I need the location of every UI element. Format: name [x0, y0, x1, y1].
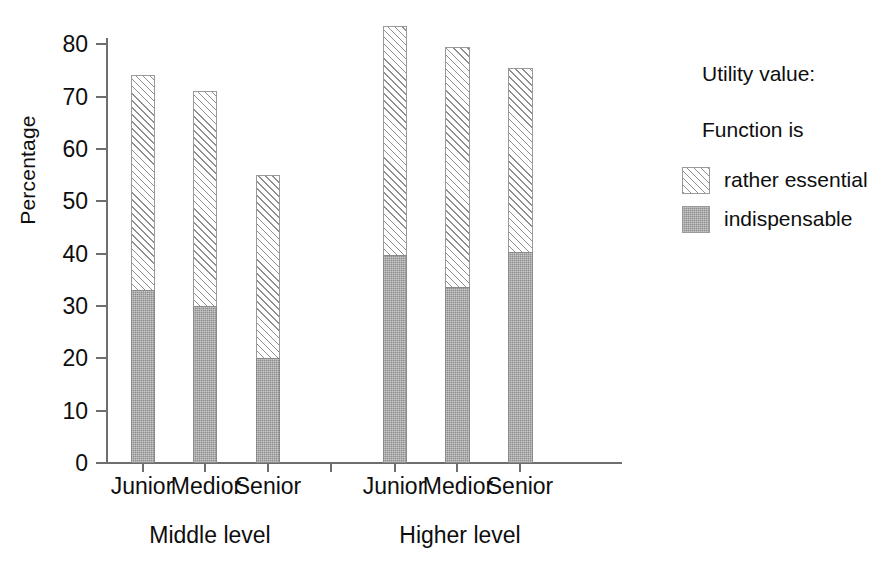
- bar-segment-rather-essential: [193, 91, 217, 309]
- bar-middle-medior: [193, 91, 217, 463]
- x-tick-middle-junior: [142, 464, 144, 472]
- y-tick-label-30: 30: [28, 295, 88, 318]
- group-label-higher-level: Higher level: [380, 522, 540, 548]
- x-axis-line: [106, 462, 622, 464]
- bar-segment-rather-essential: [256, 175, 280, 360]
- x-tick-higher-junior: [394, 464, 396, 472]
- x-tick-higher-senior: [519, 464, 521, 472]
- category-label-middle-senior: Senior: [228, 473, 308, 499]
- y-tick-60: [96, 148, 106, 150]
- y-tick-label-10: 10: [28, 400, 88, 423]
- bar-segment-indispensable: [131, 290, 155, 463]
- y-tick-0: [96, 462, 106, 464]
- y-tick-80: [96, 43, 106, 45]
- legend-swatch-indispensable-icon: [682, 206, 710, 233]
- y-tick-label-60: 60: [28, 138, 88, 161]
- bar-segment-indispensable: [256, 358, 280, 463]
- bar-middle-junior: [131, 75, 155, 463]
- x-tick-middle-medior: [204, 464, 206, 472]
- bar-segment-rather-essential: [508, 68, 533, 255]
- y-axis-line: [106, 38, 108, 464]
- bar-segment-indispensable: [508, 252, 533, 463]
- bar-segment-rather-essential: [445, 47, 470, 290]
- bar-segment-rather-essential: [383, 26, 407, 258]
- y-tick-10: [96, 410, 106, 412]
- legend-label-indispensable: indispensable: [724, 207, 852, 231]
- y-tick-label-70: 70: [28, 86, 88, 109]
- x-tick-middle-senior: [267, 464, 269, 472]
- bar-higher-medior: [445, 47, 470, 463]
- bar-segment-rather-essential: [131, 75, 155, 293]
- y-tick-label-0: 0: [28, 452, 88, 475]
- y-axis-title: Percentage: [16, 90, 40, 250]
- bar-segment-indispensable: [193, 306, 217, 463]
- bar-segment-indispensable: [383, 255, 407, 463]
- category-label-higher-senior: Senior: [480, 473, 560, 499]
- legend-swatch-rather-essential-icon: [682, 167, 710, 194]
- y-tick-70: [96, 96, 106, 98]
- group-label-middle-level: Middle level: [130, 522, 290, 548]
- y-tick-label-20: 20: [28, 347, 88, 370]
- y-tick-30: [96, 305, 106, 307]
- x-tick-group-separator: [330, 464, 332, 472]
- bar-segment-indispensable: [445, 287, 470, 463]
- y-tick-20: [96, 357, 106, 359]
- y-tick-label-80: 80: [28, 33, 88, 56]
- y-tick-label-50: 50: [28, 190, 88, 213]
- legend-label-rather-essential: rather essential: [724, 168, 868, 192]
- legend-subtitle: Function is: [702, 118, 804, 142]
- bar-middle-senior: [256, 175, 280, 463]
- y-tick-50: [96, 200, 106, 202]
- y-tick-label-40: 40: [28, 243, 88, 266]
- y-tick-40: [96, 253, 106, 255]
- x-tick-higher-medior: [456, 464, 458, 472]
- bar-higher-junior: [383, 26, 407, 463]
- bar-higher-senior: [508, 68, 533, 463]
- legend-title: Utility value:: [702, 62, 815, 86]
- bar-chart-figure: Percentage 0 10 20 30 40 50 60 70 80: [0, 0, 892, 567]
